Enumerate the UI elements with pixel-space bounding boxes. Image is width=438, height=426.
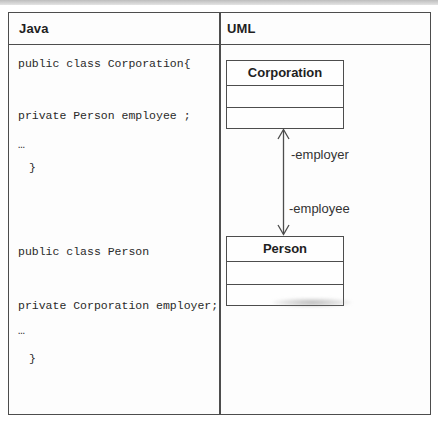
uml-class-name: Corporation: [227, 61, 343, 86]
uml-class-corporation: Corporation: [226, 60, 344, 129]
uml-class-name: Person: [227, 237, 343, 262]
java-code-line: public class Person: [18, 245, 149, 259]
association-role-label-employer: -employer: [291, 147, 349, 162]
java-code-line: public class Corporation{: [18, 57, 191, 71]
uml-attributes-compartment: [227, 262, 343, 285]
scan-artifact-band: [0, 0, 438, 5]
uml-attributes-compartment: [227, 86, 343, 108]
java-code-line: private Person employee ;: [18, 109, 191, 123]
uml-class-person: Person: [226, 236, 344, 306]
association-role-label-employee: -employee: [289, 201, 350, 216]
scan-smudge-artifact: [273, 298, 351, 307]
column-header-uml: UML: [227, 21, 256, 36]
java-code-line: …: [18, 138, 25, 152]
java-code-line: }: [29, 352, 36, 366]
uml-methods-compartment: [227, 108, 343, 128]
column-divider: [219, 13, 221, 414]
java-code-line: private Corporation employer;: [18, 299, 218, 313]
comparison-table: Java UML public class Corporation{ priva…: [8, 12, 431, 415]
java-code-line: }: [29, 161, 36, 175]
java-code-line: …: [18, 324, 25, 338]
column-header-java: Java: [19, 21, 49, 36]
